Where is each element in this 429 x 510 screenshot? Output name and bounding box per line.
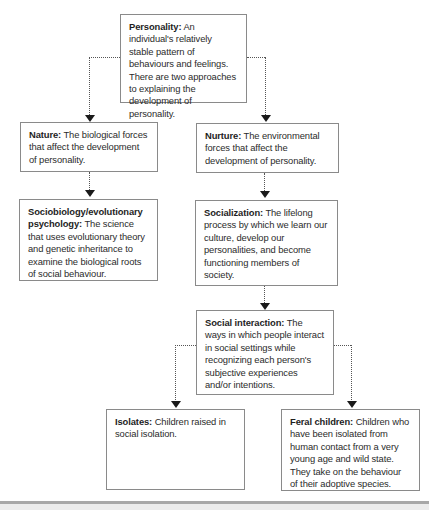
connector-personality-nature-h bbox=[89, 57, 120, 58]
arrowhead-icon bbox=[171, 401, 181, 408]
node-term: Nature: bbox=[29, 129, 61, 140]
arrowhead-icon bbox=[260, 303, 270, 310]
node-sociobiology: Sociobiology/evolutionary psychology: Th… bbox=[19, 199, 158, 281]
connector-nature-sociobiology bbox=[89, 172, 90, 190]
node-feral-children: Feral children: Children who have been i… bbox=[281, 409, 420, 491]
node-socialization: Socialization: The lifelong process by w… bbox=[195, 200, 338, 286]
node-nurture: Nurture: The environmental forces that a… bbox=[196, 123, 339, 173]
node-term: Personality: bbox=[129, 21, 181, 32]
connector-interaction-feral-v bbox=[351, 345, 352, 402]
node-personality: Personality: An individual's relatively … bbox=[120, 14, 247, 103]
node-nature: Nature: The biological forces that affec… bbox=[20, 122, 158, 172]
node-term: Nurture: bbox=[205, 130, 241, 141]
connector-interaction-isolates-h bbox=[175, 345, 196, 346]
arrowhead-icon bbox=[85, 115, 95, 122]
node-term: Social interaction: bbox=[205, 317, 284, 328]
node-social-interaction: Social interaction: The ways in which pe… bbox=[196, 310, 334, 395]
node-term: Isolates: bbox=[115, 416, 152, 427]
connector-interaction-isolates-v bbox=[175, 345, 176, 402]
node-isolates: Isolates: Children raised in social isol… bbox=[106, 409, 245, 490]
node-term: Socialization: bbox=[204, 207, 263, 218]
node-term: Feral children: bbox=[290, 416, 353, 427]
connector-personality-nature-v bbox=[89, 57, 90, 117]
arrowhead-icon bbox=[260, 191, 270, 198]
node-definition: An individual's relatively stable patter… bbox=[129, 21, 236, 119]
bottom-band bbox=[0, 504, 429, 510]
arrowhead-icon bbox=[347, 401, 357, 408]
arrowhead-icon bbox=[261, 115, 271, 122]
connector-personality-nurture-v bbox=[265, 57, 266, 117]
arrowhead-icon bbox=[85, 190, 95, 197]
connector-interaction-feral-h bbox=[334, 345, 351, 346]
connector-personality-nurture-h bbox=[247, 57, 265, 58]
connector-nurture-socialization bbox=[264, 173, 265, 191]
connector-socialization-interaction bbox=[264, 286, 265, 303]
